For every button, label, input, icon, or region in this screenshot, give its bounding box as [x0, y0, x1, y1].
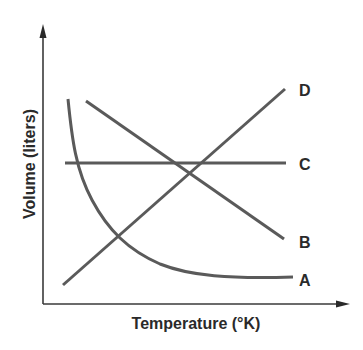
x-axis-arrow-icon: [336, 301, 350, 308]
series-a-label: A: [299, 272, 311, 289]
series-b-label: B: [299, 234, 311, 251]
chart: D C B A Temperature (°K) Volume (liters): [0, 0, 363, 350]
y-axis-title: Volume (liters): [21, 109, 38, 219]
series-b-line: [86, 101, 284, 239]
y-axis-arrow-icon: [40, 24, 47, 38]
series-d-line: [63, 89, 285, 285]
x-axis-title: Temperature (°K): [132, 315, 261, 332]
series-d-label: D: [299, 82, 311, 99]
series-c-label: C: [299, 156, 311, 173]
